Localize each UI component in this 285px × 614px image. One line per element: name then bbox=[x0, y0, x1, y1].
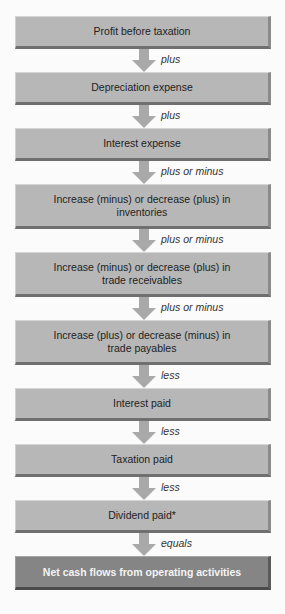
step-label-line2: trade receivables bbox=[102, 274, 182, 286]
step-taxation-paid: Taxation paid bbox=[15, 444, 271, 477]
operator-label: equals bbox=[161, 537, 192, 549]
step-profit-before-taxation: Profit before taxation bbox=[15, 16, 271, 49]
connector-plus-or-minus: plus or minus bbox=[15, 161, 273, 184]
step-label: Increase (plus) or decrease (minus) in t… bbox=[54, 329, 231, 355]
connector-plus-or-minus: plus or minus bbox=[15, 297, 273, 320]
down-arrow-icon bbox=[132, 533, 156, 556]
step-dividend-paid: Dividend paid* bbox=[15, 500, 271, 533]
step-depreciation-expense: Depreciation expense bbox=[15, 72, 271, 105]
step-label: Increase (minus) or decrease (plus) in i… bbox=[54, 193, 231, 219]
step-label: Increase (minus) or decrease (plus) in t… bbox=[54, 261, 231, 287]
step-label: Depreciation expense bbox=[91, 81, 193, 94]
operator-label: less bbox=[161, 425, 180, 437]
connector-plus: plus bbox=[15, 105, 273, 128]
cash-flow-diagram: Profit before taxation plus Depreciation… bbox=[15, 16, 273, 590]
step-label-line1: Increase (minus) or decrease (plus) in bbox=[54, 193, 231, 205]
step-label: Net cash flows from operating activities bbox=[43, 566, 241, 579]
step-label: Taxation paid bbox=[111, 453, 173, 466]
connector-less: less bbox=[15, 421, 273, 444]
down-arrow-icon bbox=[132, 297, 156, 320]
step-net-cash-flows-operating: Net cash flows from operating activities bbox=[15, 556, 271, 590]
operator-label: less bbox=[161, 369, 180, 381]
down-arrow-icon bbox=[132, 49, 156, 72]
down-arrow-icon bbox=[132, 161, 156, 184]
step-label: Interest paid bbox=[113, 397, 171, 410]
connector-less: less bbox=[15, 477, 273, 500]
operator-label: plus or minus bbox=[161, 301, 223, 313]
down-arrow-icon bbox=[132, 477, 156, 500]
step-label-line1: Increase (minus) or decrease (plus) in bbox=[54, 261, 231, 273]
down-arrow-icon bbox=[132, 365, 156, 388]
step-interest-expense: Interest expense bbox=[15, 128, 271, 161]
step-label: Dividend paid* bbox=[108, 509, 176, 522]
down-arrow-icon bbox=[132, 105, 156, 128]
step-label-line1: Increase (plus) or decrease (minus) in bbox=[54, 329, 231, 341]
connector-equals: equals bbox=[15, 533, 273, 556]
connector-plus-or-minus: plus or minus bbox=[15, 229, 273, 252]
operator-label: less bbox=[161, 481, 180, 493]
down-arrow-icon bbox=[132, 421, 156, 444]
connector-less: less bbox=[15, 365, 273, 388]
operator-label: plus or minus bbox=[161, 165, 223, 177]
step-label-line2: inventories bbox=[117, 206, 168, 218]
step-change-trade-receivables: Increase (minus) or decrease (plus) in t… bbox=[15, 252, 271, 297]
down-arrow-icon bbox=[132, 229, 156, 252]
step-label: Profit before taxation bbox=[94, 25, 191, 38]
operator-label: plus bbox=[161, 53, 180, 65]
connector-plus: plus bbox=[15, 49, 273, 72]
step-change-inventories: Increase (minus) or decrease (plus) in i… bbox=[15, 184, 271, 229]
step-interest-paid: Interest paid bbox=[15, 388, 271, 421]
operator-label: plus bbox=[161, 109, 180, 121]
step-change-trade-payables: Increase (plus) or decrease (minus) in t… bbox=[15, 320, 271, 365]
step-label: Interest expense bbox=[103, 137, 181, 150]
step-label-line2: trade payables bbox=[108, 342, 177, 354]
operator-label: plus or minus bbox=[161, 233, 223, 245]
